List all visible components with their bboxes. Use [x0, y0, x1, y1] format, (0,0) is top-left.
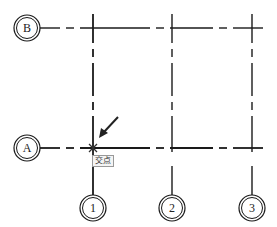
- axis-label-1: 1: [90, 201, 96, 215]
- axis-label-2: 2: [169, 201, 175, 215]
- snap-tooltip: 交点: [92, 155, 114, 167]
- axis-label-a: A: [23, 141, 32, 155]
- pointer-arrow-icon: [99, 117, 118, 138]
- grid-diagram: B A 1 2 3: [0, 0, 277, 227]
- axis-label-b: B: [23, 21, 31, 35]
- axis-label-3: 3: [249, 201, 255, 215]
